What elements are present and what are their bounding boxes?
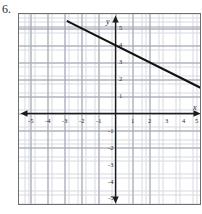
x-tick-label: 5 bbox=[195, 118, 198, 125]
x-tick-label: -3 bbox=[62, 118, 67, 125]
y-tick-label: -1 bbox=[108, 128, 113, 135]
y-tick-label: 4 bbox=[119, 42, 122, 49]
x-tick-label: 2 bbox=[148, 118, 151, 125]
x-tick-label: 4 bbox=[182, 118, 185, 125]
plotted-line bbox=[68, 21, 201, 93]
x-tick-label: -1 bbox=[96, 118, 101, 125]
x-tick-label: -5 bbox=[28, 118, 33, 125]
y-tick-label: -3 bbox=[108, 162, 113, 169]
coordinate-graph: -5 -4 -3 -2 -1 1 2 3 4 5 5 4 3 2 1 -1 -2… bbox=[18, 13, 201, 205]
y-tick-label: 3 bbox=[119, 59, 122, 66]
y-axis-label: y bbox=[106, 18, 110, 26]
y-tick-label: -2 bbox=[108, 145, 113, 152]
x-axis bbox=[21, 110, 201, 116]
plot-area bbox=[19, 14, 201, 205]
y-tick-label: 5 bbox=[119, 25, 122, 32]
x-tick-label: 3 bbox=[165, 118, 168, 125]
x-tick-label: -2 bbox=[79, 118, 84, 125]
y-tick-label: 2 bbox=[119, 76, 122, 83]
x-tick-label: -4 bbox=[45, 118, 50, 125]
x-axis-label: x bbox=[193, 104, 197, 112]
y-tick-label: -4 bbox=[108, 179, 113, 186]
problem-number: 6. bbox=[2, 2, 11, 17]
y-tick-label: 1 bbox=[119, 93, 122, 100]
y-tick-label: -5 bbox=[108, 195, 113, 202]
x-tick-label: 1 bbox=[131, 118, 134, 125]
